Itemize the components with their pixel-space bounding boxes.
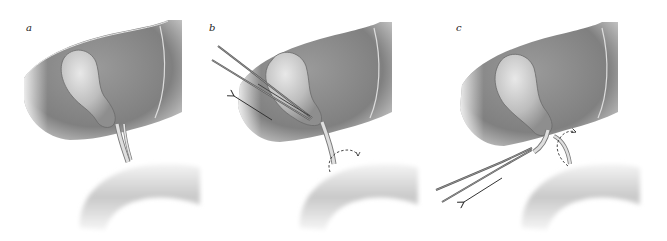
duodenum — [300, 164, 418, 230]
panel-c-illustration — [420, 0, 667, 241]
panel-a-illustration — [0, 0, 215, 241]
duodenum — [522, 164, 640, 230]
panel-b-illustration — [200, 0, 430, 241]
duodenum — [80, 164, 200, 230]
panel-c: c — [420, 0, 667, 241]
panel-a: a — [0, 0, 215, 241]
pull-arrow — [464, 178, 502, 202]
panel-b: b — [200, 0, 430, 241]
forceps-instrument — [436, 148, 532, 202]
